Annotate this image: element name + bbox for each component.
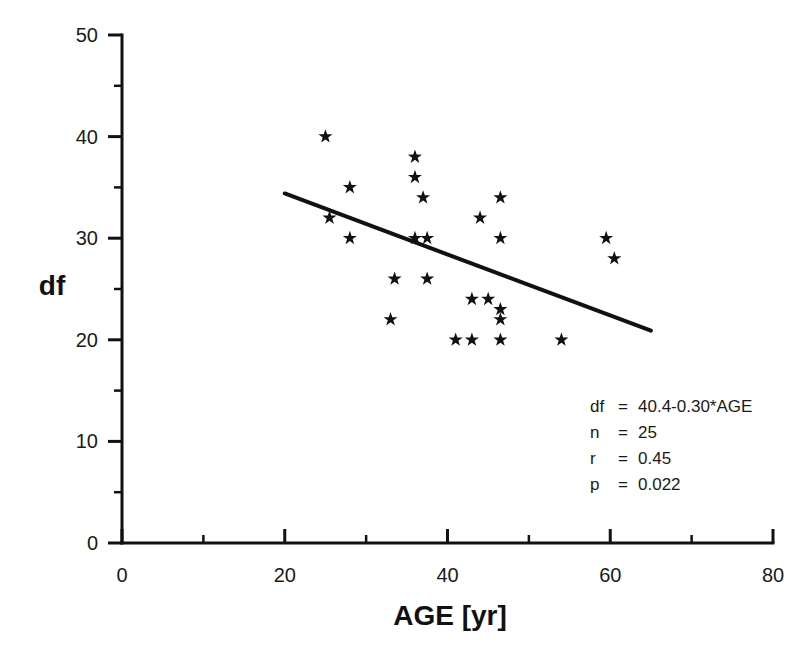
x-tick-label: 80: [762, 564, 784, 586]
scatter-plot-figure: 01020304050 020406080 df AGE [yr] df=40.…: [0, 0, 804, 648]
statistics-annotation: df=40.4-0.30*AGEn=25r=0.45p=0.022: [590, 397, 752, 494]
x-axis-ticks: [122, 529, 773, 543]
x-axis-title: AGE [yr]: [393, 600, 507, 631]
data-point-marker: [408, 170, 422, 183]
data-point-marker: [599, 231, 613, 244]
data-point-group: [318, 129, 621, 346]
y-tick-label: 50: [76, 24, 98, 46]
data-point-marker: [607, 251, 621, 264]
plot-canvas: 01020304050 020406080 df AGE [yr] df=40.…: [0, 0, 804, 648]
axes-group: [122, 35, 773, 543]
data-point-marker: [493, 332, 507, 345]
x-tick-label: 20: [274, 564, 296, 586]
y-tick-label: 40: [76, 126, 98, 148]
annotation-value: 40.4-0.30*AGE: [638, 397, 752, 416]
data-point-marker: [473, 210, 487, 223]
annotation-operator: =: [618, 397, 628, 416]
annotation-label: p: [590, 475, 599, 494]
annotation-operator: =: [618, 423, 628, 442]
data-point-marker: [493, 312, 507, 325]
data-point-marker: [318, 129, 332, 142]
data-point-marker: [343, 180, 357, 193]
data-point-marker: [465, 332, 479, 345]
x-tick-label: 0: [116, 564, 127, 586]
y-tick-label: 0: [87, 532, 98, 554]
data-point-marker: [343, 231, 357, 244]
y-tick-label: 20: [76, 329, 98, 351]
annotation-value: 0.022: [638, 475, 681, 494]
data-point-marker: [416, 190, 430, 203]
annotation-label: n: [590, 423, 599, 442]
data-point-marker: [420, 271, 434, 284]
y-tick-label: 10: [76, 430, 98, 452]
annotation-label: r: [590, 449, 596, 468]
y-tick-label: 30: [76, 227, 98, 249]
data-point-marker: [420, 231, 434, 244]
x-tick-label: 40: [436, 564, 458, 586]
data-point-marker: [493, 231, 507, 244]
y-axis-title: df: [39, 270, 66, 301]
regression-fit-line: [285, 193, 651, 330]
y-axis-tick-labels: 01020304050: [76, 24, 98, 554]
annotation-label: df: [590, 397, 604, 416]
x-axis-tick-labels: 020406080: [116, 564, 784, 586]
data-point-marker: [449, 332, 463, 345]
annotation-value: 0.45: [638, 449, 671, 468]
data-point-marker: [481, 292, 495, 305]
data-point-marker: [384, 312, 398, 325]
x-tick-label: 60: [599, 564, 621, 586]
data-point-marker: [465, 292, 479, 305]
data-point-marker: [408, 150, 422, 163]
data-point-marker: [493, 190, 507, 203]
data-point-marker: [554, 332, 568, 345]
annotation-operator: =: [618, 475, 628, 494]
data-point-marker: [388, 271, 402, 284]
annotation-value: 25: [638, 423, 657, 442]
y-axis-ticks: [108, 35, 122, 543]
annotation-operator: =: [618, 449, 628, 468]
